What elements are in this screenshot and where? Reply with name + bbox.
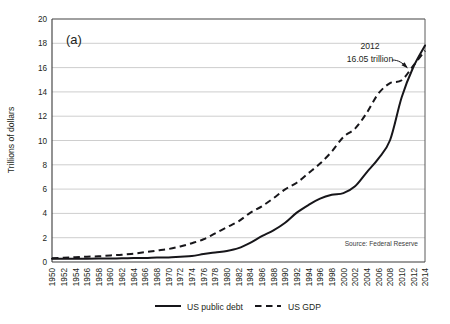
x-axis-tick-label: 1980 <box>223 268 232 287</box>
x-axis-tick-label: 1950 <box>48 268 57 287</box>
y-axis-tick-label: 10 <box>38 137 48 146</box>
line-chart: 02468101214161820 1950195219541956195819… <box>0 0 450 324</box>
y-axis-tick-label: 18 <box>38 39 48 48</box>
x-axis-tick-label: 1994 <box>305 268 314 287</box>
y-axis-title: Trillions of dollars <box>6 107 16 174</box>
x-axis-tick-label: 1988 <box>270 268 279 287</box>
y-axis-tick-label: 0 <box>42 258 47 267</box>
x-axis-tick-label: 1992 <box>293 268 302 287</box>
x-axis-tick-label: 1984 <box>246 268 255 287</box>
legend-label-us-gdp: US GDP <box>288 302 321 312</box>
y-axis-tick-label: 16 <box>38 64 48 73</box>
x-axis-tick-label: 1972 <box>176 268 185 287</box>
x-axis-tick-label: 1956 <box>83 268 92 287</box>
x-axis-tick-label: 1974 <box>188 268 197 287</box>
y-axis-tick-label: 14 <box>38 88 48 97</box>
x-axis-tick-label: 1978 <box>211 268 220 287</box>
x-axis-tick-label: 1976 <box>200 268 209 287</box>
x-axis-tick-label: 2010 <box>398 268 407 287</box>
x-axis-tick-label: 1970 <box>165 268 174 287</box>
x-axis-tick-label: 2012 <box>410 268 419 287</box>
y-axis-tick-label: 20 <box>38 15 48 24</box>
x-axis-tick-label: 1968 <box>153 268 162 287</box>
x-axis-tick-label: 1998 <box>328 268 337 287</box>
x-axis-tick-label: 2008 <box>386 268 395 287</box>
source-note: Source: Federal Reserve <box>345 240 419 247</box>
y-axis-tick-label: 4 <box>42 209 47 218</box>
x-axis-tick-label: 2000 <box>340 268 349 287</box>
x-axis-tick-label: 1966 <box>141 268 150 287</box>
y-axis-tick-label: 2 <box>42 234 47 243</box>
x-axis-tick-label: 1986 <box>258 268 267 287</box>
chart-figure: 02468101214161820 1950195219541956195819… <box>0 0 450 324</box>
x-axis-tick-label: 1954 <box>72 268 81 287</box>
y-axis-tick-label: 6 <box>42 185 47 194</box>
x-axis-tick-label: 1952 <box>60 268 69 287</box>
x-axis-tick-label: 2006 <box>375 268 384 287</box>
x-axis-tick-label: 2004 <box>363 268 372 287</box>
x-axis-tick-label: 1960 <box>106 268 115 287</box>
x-axis-tick-label: 1962 <box>118 268 127 287</box>
x-axis-tick-label: 1958 <box>95 268 104 287</box>
x-axis-tick-label: 1964 <box>130 268 139 287</box>
x-axis-tick-label: 1996 <box>316 268 325 287</box>
y-axis-tick-label: 12 <box>38 112 48 121</box>
x-axis-tick-label: 2002 <box>351 268 360 287</box>
y-axis-tick-label: 8 <box>42 161 47 170</box>
x-axis-tick-label: 1982 <box>235 268 244 287</box>
annotation-line-2: 16.05 trillion <box>347 54 394 64</box>
x-axis-tick-label: 2014 <box>421 268 430 287</box>
panel-label: (a) <box>66 32 82 47</box>
x-axis-tick-label: 1990 <box>281 268 290 287</box>
legend-label-us-public-debt: US public debt <box>187 302 244 312</box>
annotation-line-1: 2012 <box>360 41 379 51</box>
